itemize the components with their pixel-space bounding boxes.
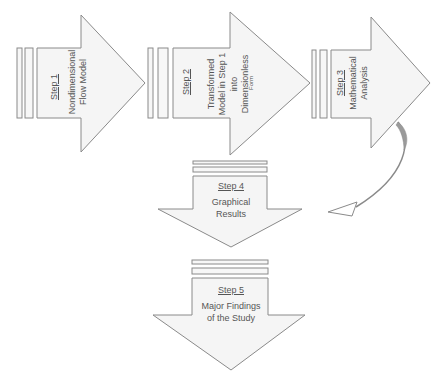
step-3-title: Step 3 [335, 48, 346, 118]
step-5-line-2: of the Study [176, 313, 286, 324]
step-3-line-1: Mathematical [348, 38, 359, 128]
step-2-line-1: Transformed [206, 29, 217, 139]
step-3-line-2: Analysis [359, 38, 370, 128]
step-2-title: Step 2 [181, 42, 192, 122]
step-2-small-text: Form [248, 63, 256, 103]
step-2-label: Step 2 [181, 42, 193, 122]
step-1-line-2: Flow Model [78, 37, 89, 127]
step-3-text: Mathematical Analysis [348, 38, 372, 128]
step-4-title: Step 4 [181, 181, 281, 192]
step-2-line-5: Form [248, 63, 256, 103]
step-4-line-2: Results [181, 209, 281, 220]
step-1-line-1: Nondimensional [67, 37, 78, 127]
curved-connector-arrow [328, 122, 407, 216]
step-2-line-3: into [229, 29, 240, 139]
step-5-title: Step 5 [176, 285, 286, 296]
step-2-text: Transformed Model in Step 1 into Dimensi… [206, 29, 252, 139]
step-1-title: Step 1 [49, 47, 60, 127]
step-4-label: Step 4 Graphical Results [181, 181, 281, 220]
step-5-label: Step 5 Major Findings of the Study [176, 285, 286, 324]
step-2-line-2: Model in Step 1 [217, 29, 228, 139]
step-3-label: Step 3 [335, 48, 347, 118]
step-5-line-1: Major Findings [176, 301, 286, 312]
step-1-text: Nondimensional Flow Model [67, 37, 91, 127]
step-4-line-1: Graphical [181, 197, 281, 208]
